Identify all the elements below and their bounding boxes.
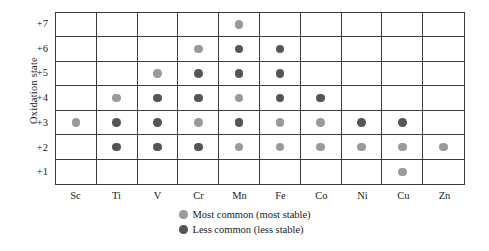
grid-cell bbox=[178, 135, 219, 159]
grid-cell bbox=[423, 86, 464, 110]
grid-cell bbox=[260, 37, 301, 61]
grid-cell bbox=[382, 62, 423, 86]
grid-cell bbox=[97, 86, 138, 110]
grid-cell bbox=[219, 160, 260, 184]
less-common-dot bbox=[276, 45, 285, 54]
most-common-dot-icon bbox=[179, 210, 188, 219]
grid-cell bbox=[97, 13, 138, 37]
grid-cell bbox=[178, 160, 219, 184]
grid-cell bbox=[178, 13, 219, 37]
grid-cell bbox=[97, 62, 138, 86]
grid-cell bbox=[301, 111, 342, 135]
most-common-dot bbox=[72, 118, 81, 127]
grid-cell bbox=[301, 160, 342, 184]
less-common-dot bbox=[194, 94, 203, 103]
most-common-dot bbox=[235, 94, 244, 103]
grid-cell bbox=[382, 37, 423, 61]
grid-cell bbox=[342, 13, 383, 37]
grid-cell bbox=[301, 62, 342, 86]
most-common-dot bbox=[276, 118, 285, 127]
most-common-dot bbox=[194, 45, 203, 54]
most-common-dot bbox=[439, 143, 448, 152]
grid-cell bbox=[260, 86, 301, 110]
grid-cell bbox=[301, 135, 342, 159]
grid-cell bbox=[260, 135, 301, 159]
chart-legend: Most common (most stable)Less common (le… bbox=[179, 207, 429, 237]
grid-cell bbox=[260, 62, 301, 86]
x-tick-label: Cr bbox=[178, 187, 219, 205]
less-common-dot bbox=[276, 69, 285, 78]
grid-cell bbox=[382, 86, 423, 110]
most-common-dot bbox=[153, 69, 162, 78]
legend-label: Less common (less stable) bbox=[193, 224, 304, 235]
most-common-dot bbox=[398, 143, 407, 152]
grid-cell bbox=[178, 62, 219, 86]
grid-cell bbox=[260, 160, 301, 184]
legend-item: Most common (most stable) bbox=[179, 207, 429, 222]
oxidation-state-grid bbox=[55, 12, 465, 185]
most-common-dot bbox=[276, 143, 285, 152]
y-tick-label: +6 bbox=[37, 37, 48, 62]
grid-cell bbox=[56, 86, 97, 110]
x-tick-label: Fe bbox=[260, 187, 301, 205]
grid-cell bbox=[423, 37, 464, 61]
less-common-dot bbox=[153, 118, 162, 127]
grid-cell bbox=[423, 135, 464, 159]
grid-cell bbox=[342, 135, 383, 159]
grid-cell bbox=[342, 37, 383, 61]
grid-cell bbox=[219, 13, 260, 37]
less-common-dot bbox=[235, 69, 244, 78]
grid-cell bbox=[219, 135, 260, 159]
less-common-dot bbox=[235, 45, 244, 54]
less-common-dot bbox=[153, 94, 162, 103]
oxidation-state-chart: Oxidation state +7+6+5+4+3+2+1 ScTiVCrMn… bbox=[0, 0, 489, 251]
less-common-dot bbox=[194, 69, 203, 78]
grid-cell bbox=[342, 86, 383, 110]
grid-cell bbox=[382, 13, 423, 37]
most-common-dot bbox=[235, 20, 244, 29]
grid-cell bbox=[178, 111, 219, 135]
x-axis-tick-labels: ScTiVCrMnFeCoNiCuZn bbox=[55, 187, 465, 205]
x-tick-label: Sc bbox=[55, 187, 96, 205]
most-common-dot bbox=[398, 168, 407, 177]
grid-cell bbox=[138, 62, 179, 86]
x-tick-label: V bbox=[137, 187, 178, 205]
x-tick-label: Ni bbox=[342, 187, 383, 205]
legend-label: Most common (most stable) bbox=[193, 209, 311, 220]
x-tick-label: Cu bbox=[383, 187, 424, 205]
x-tick-label: Mn bbox=[219, 187, 260, 205]
most-common-dot bbox=[316, 143, 325, 152]
grid-cell bbox=[301, 13, 342, 37]
y-tick-label: +3 bbox=[37, 111, 48, 136]
most-common-dot bbox=[357, 143, 366, 152]
grid-cell bbox=[342, 62, 383, 86]
grid-cell bbox=[97, 37, 138, 61]
less-common-dot bbox=[316, 94, 325, 103]
y-tick-label: +5 bbox=[37, 61, 48, 86]
y-axis-tick-labels: +7+6+5+4+3+2+1 bbox=[12, 12, 52, 185]
most-common-dot bbox=[316, 118, 325, 127]
grid-cell bbox=[342, 160, 383, 184]
x-tick-label: Zn bbox=[424, 187, 465, 205]
most-common-dot bbox=[112, 94, 121, 103]
grid-cell bbox=[219, 37, 260, 61]
most-common-dot bbox=[194, 118, 203, 127]
y-tick-label: +2 bbox=[37, 136, 48, 161]
less-common-dot bbox=[235, 118, 244, 127]
grid-cell bbox=[56, 37, 97, 61]
grid-cell bbox=[423, 111, 464, 135]
most-common-dot bbox=[235, 143, 244, 152]
grid-cell bbox=[56, 111, 97, 135]
less-common-dot bbox=[276, 94, 285, 103]
grid-cell bbox=[301, 37, 342, 61]
grid-cell bbox=[260, 111, 301, 135]
less-common-dot bbox=[112, 118, 121, 127]
y-tick-label: +4 bbox=[37, 86, 48, 111]
grid-cell bbox=[97, 111, 138, 135]
grid-cell bbox=[97, 160, 138, 184]
grid-cell bbox=[423, 160, 464, 184]
grid-cell bbox=[219, 86, 260, 110]
grid-cell bbox=[138, 86, 179, 110]
grid-cell bbox=[260, 13, 301, 37]
grid-cell bbox=[56, 135, 97, 159]
